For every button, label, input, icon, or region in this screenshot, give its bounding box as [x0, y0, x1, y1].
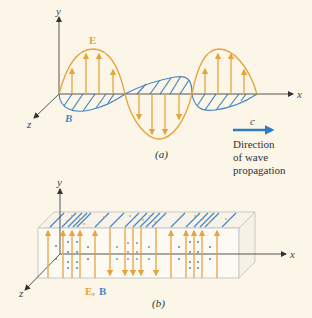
- z-axis-label-b: z: [19, 288, 23, 299]
- propagation-text: Direction of wave propagation: [233, 138, 286, 177]
- propagation-line-1: Direction: [233, 138, 286, 151]
- b-field-label: B: [65, 113, 72, 124]
- part-b-caption: (b): [152, 298, 165, 309]
- field-legend: E, B: [85, 282, 106, 298]
- y-axis-label-a: y: [56, 6, 61, 17]
- legend-e: E,: [85, 285, 95, 297]
- propagation-line-3: propagation: [233, 164, 286, 177]
- z-axis-label-a: z: [27, 119, 31, 130]
- x-axis-label-b: x: [290, 249, 295, 260]
- x-axis-label-a: x: [297, 89, 302, 100]
- wave-box: [38, 212, 255, 278]
- propagation-line-2: of wave: [233, 151, 286, 164]
- speed-of-light-label: c: [250, 116, 255, 127]
- legend-b: B: [99, 285, 106, 297]
- y-axis-label-b: y: [57, 177, 62, 188]
- part-b-diagram: [25, 189, 286, 290]
- z-axis-a: [34, 94, 59, 118]
- part-a-caption: (a): [155, 149, 168, 160]
- e-field-label: E: [89, 35, 96, 46]
